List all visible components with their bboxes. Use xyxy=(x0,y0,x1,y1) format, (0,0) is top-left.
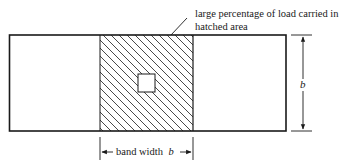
height-dimension-label: b xyxy=(300,78,306,90)
band-width-text: band width xyxy=(116,146,164,157)
annotation-leader-line xyxy=(171,18,187,35)
annotation-text-line1: large percentage of load carried in xyxy=(195,8,339,19)
band-width-label: band width b xyxy=(116,146,174,157)
column-square xyxy=(138,74,155,92)
annotation-text-line2: hatched area xyxy=(195,21,248,32)
band-width-symbol: b xyxy=(169,146,174,157)
slab-load-diagram: large percentage of load carried in hatc… xyxy=(0,0,355,167)
